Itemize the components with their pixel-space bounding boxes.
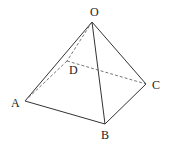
edge-DC-hidden [67, 61, 146, 84]
pyramid-diagram: O A B C D [0, 0, 169, 148]
vertex-label-D: D [69, 63, 78, 77]
edge-OB [92, 22, 105, 124]
vertex-label-O: O [90, 5, 99, 19]
vertex-label-B: B [101, 128, 109, 142]
edge-BC [105, 84, 146, 124]
vertex-label-C: C [152, 78, 160, 92]
edge-OC [92, 22, 146, 84]
edge-OA [25, 22, 92, 101]
edge-AB [25, 101, 105, 124]
edge-AD-hidden [25, 61, 67, 101]
vertex-label-A: A [11, 96, 20, 110]
edge-OD-hidden [67, 22, 92, 61]
